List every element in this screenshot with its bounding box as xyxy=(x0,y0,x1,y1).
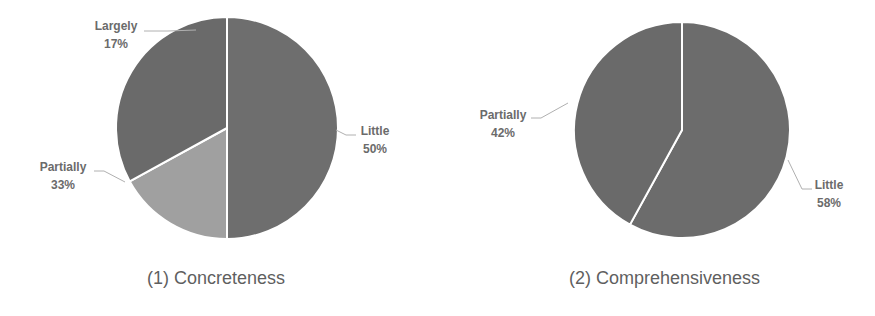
slice-label-largely-pct: 17% xyxy=(84,35,148,53)
pie-slice-little xyxy=(227,17,338,239)
slice-label-partially: Partially 42% xyxy=(470,106,536,142)
pie-slices xyxy=(116,17,338,239)
leader-line-partially xyxy=(531,103,568,118)
slice-label-little-pct: 58% xyxy=(804,194,854,212)
slice-label-partially-pct: 42% xyxy=(470,124,536,142)
chart-caption: (1) Concreteness xyxy=(147,268,285,289)
slice-label-partially-pct: 33% xyxy=(26,176,100,194)
chart-caption: (2) Comprehensiveness xyxy=(569,268,760,289)
slice-label-little-pct: 50% xyxy=(350,140,400,158)
slice-label-partially: Partially 33% xyxy=(26,158,100,194)
pie-chart-concreteness: Largely 17% Partially 33% Little 50% (1)… xyxy=(0,0,440,316)
slice-label-little-name: Little xyxy=(350,122,400,140)
slice-label-little-name: Little xyxy=(804,176,854,194)
slice-label-little: Little 50% xyxy=(350,122,400,158)
pie-slices xyxy=(574,22,790,238)
pie-chart-comprehensiveness: Partially 42% Little 58% (2) Comprehensi… xyxy=(440,0,875,316)
slice-label-partially-name: Partially xyxy=(470,106,536,124)
slice-label-largely-name: Largely xyxy=(84,17,148,35)
slice-label-partially-name: Partially xyxy=(26,158,100,176)
slice-label-largely: Largely 17% xyxy=(84,17,148,53)
slice-label-little: Little 58% xyxy=(804,176,854,212)
